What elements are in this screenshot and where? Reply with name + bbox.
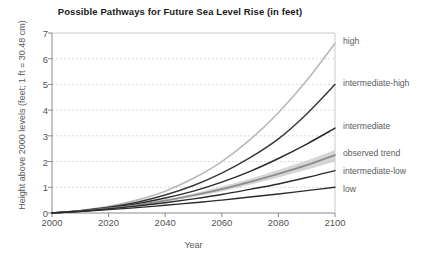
series-label-low: low	[343, 184, 356, 194]
series-label-intermediate: intermediate	[343, 121, 390, 131]
sea-level-rise-chart: Possible Pathways for Future Sea Level R…	[0, 0, 444, 263]
axis-ticks	[48, 33, 335, 217]
plot-canvas	[0, 0, 444, 263]
series-label-high: high	[343, 36, 359, 46]
series-label-intermediate-low: intermediate-low	[343, 166, 406, 176]
series-label-intermediate-high: intermediate-high	[343, 78, 409, 88]
series-label-observed-trend: observed trend	[343, 148, 400, 158]
